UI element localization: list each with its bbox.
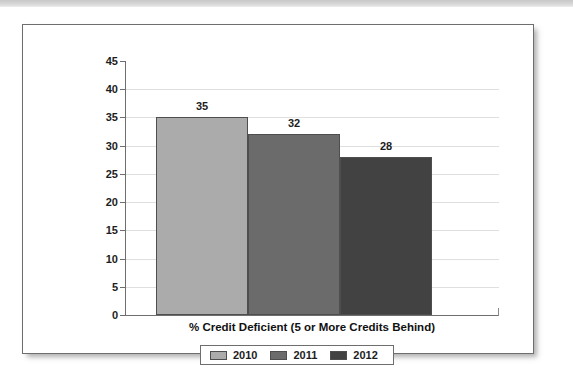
y-tick-mark — [120, 259, 125, 260]
y-tick-label: 35 — [106, 111, 118, 123]
y-tick-label: 5 — [112, 281, 118, 293]
y-tick-label: 40 — [106, 83, 118, 95]
bar-value-label-2011: 32 — [288, 117, 300, 129]
y-tick-mark — [120, 202, 125, 203]
y-tick-mark — [120, 287, 125, 288]
legend-label: 2010 — [233, 349, 257, 361]
bar-2010[interactable] — [156, 117, 248, 315]
y-tick-label: 25 — [106, 168, 118, 180]
legend-swatch-icon — [330, 351, 347, 360]
x-axis-line — [125, 315, 499, 316]
bar-value-label-2010: 35 — [196, 100, 208, 112]
y-tick-label: 0 — [112, 309, 118, 321]
legend-label: 2012 — [353, 349, 377, 361]
legend-item-2011[interactable]: 2011 — [270, 349, 323, 361]
y-tick-label: 20 — [106, 196, 118, 208]
y-tick-mark — [120, 146, 125, 147]
bar-value-label-2012: 28 — [380, 140, 392, 152]
chart-figure-frame: 454035302520151050 353228 % Credit Defic… — [22, 24, 534, 354]
legend-label: 2011 — [293, 349, 317, 361]
y-tick-mark — [120, 230, 125, 231]
legend-item-2010[interactable]: 2010 — [210, 349, 263, 361]
y-tick-mark — [120, 117, 125, 118]
legend-swatch-icon — [270, 351, 287, 360]
legend-swatch-icon — [210, 351, 227, 360]
x-axis-title: % Credit Deficient (5 or More Credits Be… — [125, 321, 499, 333]
bar-2012[interactable] — [340, 157, 432, 315]
y-tick-mark — [120, 61, 125, 62]
page-header-strip — [0, 0, 573, 7]
y-tick-label: 45 — [106, 55, 118, 67]
y-tick-mark — [120, 315, 125, 316]
y-tick-label: 30 — [106, 140, 118, 152]
bar-2011[interactable] — [248, 134, 340, 315]
y-tick-label: 10 — [106, 253, 118, 265]
y-tick-label: 15 — [106, 224, 118, 236]
y-tick-mark — [120, 89, 125, 90]
chart-legend: 201020112012 — [200, 345, 394, 365]
y-tick-mark — [120, 174, 125, 175]
bar-series-group: 353228 — [126, 61, 499, 315]
legend-item-2012[interactable]: 2012 — [330, 349, 383, 361]
plot-area: 454035302520151050 353228 — [125, 61, 499, 315]
